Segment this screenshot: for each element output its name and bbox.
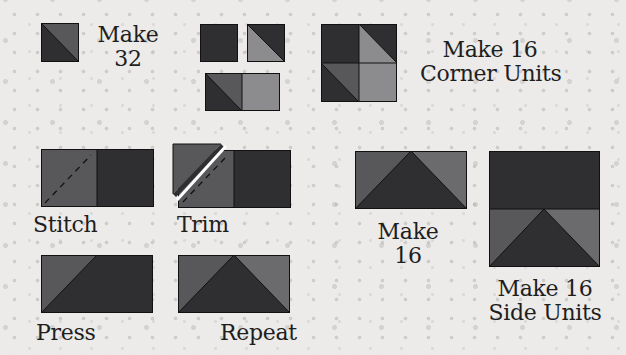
flying-geese-unit [355, 151, 467, 209]
repeat-diagram [178, 255, 290, 313]
half-square-triangle-unit [41, 23, 79, 62]
label-line-1: Make [368, 220, 448, 244]
label-line-2: Corner Units [420, 62, 560, 86]
label-line-2: 32 [88, 47, 168, 71]
stitch-label: Stitch [33, 213, 97, 237]
make-16-side-units-label: Make 16 Side Units [475, 277, 615, 325]
hst-plus-light-square [205, 73, 280, 111]
corner-unit-block [321, 24, 397, 102]
label-line-1: Make 16 [420, 38, 560, 62]
stitch-diagram [41, 149, 154, 207]
make-16-label: Make 16 [368, 220, 448, 268]
label-line-1: Make 16 [475, 277, 615, 301]
repeat-label: Repeat [220, 321, 297, 345]
press-label: Press [36, 321, 95, 345]
light-hst-square [247, 24, 285, 62]
trim-label: Trim [177, 213, 229, 237]
side-unit-block [489, 151, 600, 267]
dark-square [200, 24, 238, 62]
label-line-1: Make [88, 23, 168, 47]
make-16-corner-units-label: Make 16 Corner Units [420, 38, 560, 86]
label-line-2: Side Units [475, 301, 615, 325]
make-32-label: Make 32 [88, 23, 168, 71]
press-diagram [41, 255, 153, 313]
label-line-2: 16 [368, 244, 448, 268]
trim-diagram [173, 144, 291, 210]
